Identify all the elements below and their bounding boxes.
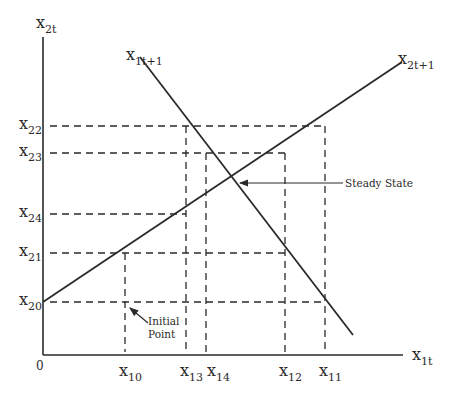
curve-label-x2t+1: x2t+1	[398, 49, 435, 72]
curve-x1t+1	[140, 57, 353, 335]
y-tick-x24: x24	[19, 202, 42, 225]
origin-label: 0	[36, 359, 44, 373]
initial-point-label-line1: Initial	[148, 315, 180, 327]
y-tick-x21: x21	[19, 241, 42, 264]
steady-state-label: Steady State	[345, 177, 413, 189]
curve-label-x1t+1: x1t+1	[126, 45, 163, 68]
y-tick-x20: x20	[19, 290, 42, 313]
x-tick-x11: x11	[319, 361, 342, 384]
initial-point-label-line2: Point	[148, 328, 176, 340]
x-tick-x14: x14	[207, 361, 230, 384]
y-tick-x22: x22	[19, 114, 42, 137]
x-tick-x13: x13	[180, 361, 203, 384]
horizontal-guides	[50, 126, 325, 302]
initial-point-arrow	[130, 308, 148, 323]
x-tick-x10: x10	[119, 361, 142, 384]
x-tick-x12: x12	[279, 361, 302, 384]
y-tick-x23: x23	[19, 141, 42, 164]
phase-diagram: x2t x1t 0 x1t+1 x2t+1 x22 x23 x24 x21 x2…	[0, 0, 451, 395]
y-axis-label: x2t	[36, 13, 57, 36]
x-axis-label: x1t	[412, 345, 433, 368]
